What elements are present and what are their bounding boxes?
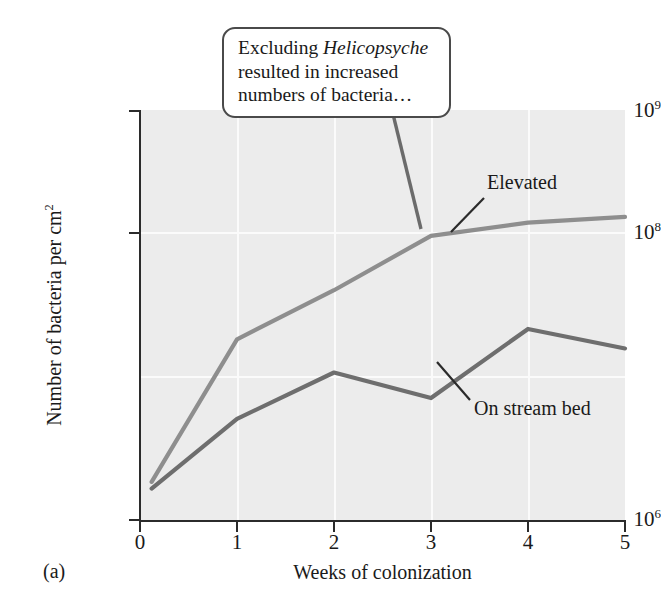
y-tick-label-1e6: 106 (533, 509, 661, 530)
series-label-on-stream-bed: On stream bed (474, 398, 591, 418)
y-tick-label-1e9-exp: 9 (654, 97, 661, 112)
y-tick-mark-1e9 (129, 110, 140, 112)
gridline-vertical-week2 (334, 110, 336, 520)
gridline-horizontal-1e7 (140, 376, 625, 378)
x-tick-label-4: 4 (508, 532, 548, 553)
callout-box[interactable]: Excluding Helicopsyche resulted in incre… (222, 27, 451, 118)
y-tick-label-1e9: 109 (533, 100, 661, 121)
callout-line-1-prefix: Excluding (238, 37, 323, 58)
y-axis-title-sup: 2 (42, 204, 56, 210)
series-label-elevated: Elevated (487, 172, 557, 192)
gridline-vertical-week3 (431, 110, 433, 520)
callout-line-3: numbers of bacteria… (238, 84, 412, 105)
x-tick-label-5: 5 (605, 532, 645, 553)
x-axis-title: Weeks of colonization (140, 562, 625, 582)
y-tick-label-1e9-base: 10 (633, 98, 654, 122)
y-axis-title-text: Number of bacteria per cm (43, 210, 65, 425)
panel-label: (a) (43, 561, 65, 581)
y-axis-title: Number of bacteria per cm2 (44, 165, 64, 465)
y-tick-label-1e6-exp: 6 (654, 506, 661, 521)
y-axis-line (139, 110, 141, 522)
x-tick-label-3: 3 (411, 532, 451, 553)
y-tick-mark-1e8 (129, 232, 140, 234)
callout-species-name: Helicopsyche (323, 37, 428, 58)
y-tick-label-1e8-base: 10 (633, 220, 654, 244)
callout-line-2: resulted in increased (238, 61, 398, 82)
x-tick-label-0: 0 (120, 532, 160, 553)
x-tick-label-1: 1 (217, 532, 257, 553)
figure-panel-a: 109 108 106 0 1 2 3 4 5 Number of bacter… (0, 0, 661, 611)
y-tick-label-1e8-exp: 8 (654, 219, 661, 234)
y-tick-label-1e6-base: 10 (633, 507, 654, 531)
x-tick-label-2: 2 (314, 532, 354, 553)
y-tick-label-1e8: 108 (533, 222, 661, 243)
gridline-vertical-week1 (237, 110, 239, 520)
